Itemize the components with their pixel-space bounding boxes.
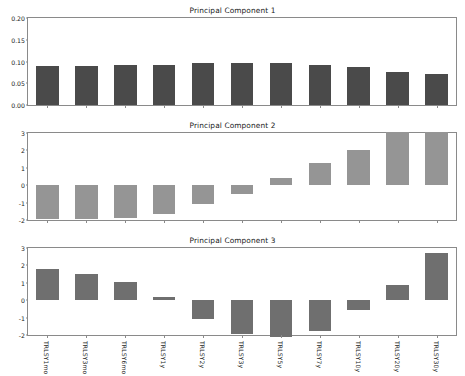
y-axis-tick-mark (26, 202, 29, 203)
y-axis-tick-label: 1 (21, 279, 25, 286)
bar (153, 297, 176, 300)
x-axis-tick-mark (242, 105, 243, 108)
y-axis-tick-label: 2 (21, 262, 25, 269)
y-axis-tick-label: 1 (21, 164, 25, 171)
x-axis-tick-mark (359, 335, 360, 338)
x-axis-tick-mark (281, 220, 282, 223)
x-axis-tick-mark (203, 105, 204, 108)
x-axis-tick-label: TRLSY3mo (82, 341, 89, 374)
y-axis-tick-mark (26, 167, 29, 168)
x-axis-tick-label: TRLSY3y (238, 341, 245, 368)
bar (75, 185, 98, 218)
x-axis-tick-mark (281, 105, 282, 108)
bar (231, 185, 254, 194)
x-axis-tick-mark (398, 220, 399, 223)
bar (309, 65, 332, 105)
y-axis-tick-label: -1 (19, 314, 25, 321)
bar (347, 150, 370, 185)
y-axis-tick-label: 0 (21, 182, 25, 189)
x-axis-tick-mark (398, 105, 399, 108)
x-axis-tick-mark (320, 105, 321, 108)
y-axis-tick-mark (26, 220, 29, 221)
panel-title: Principal Component 3 (0, 236, 465, 245)
x-axis-tick-label: TRLSY2y (199, 341, 206, 368)
panel-title: Principal Component 1 (0, 6, 465, 15)
bar (75, 66, 98, 105)
x-axis-tick-mark (164, 220, 165, 223)
y-axis-tick-label: -1 (19, 199, 25, 206)
y-axis-tick-label: 0.20 (11, 15, 25, 22)
x-axis-tick-mark (203, 335, 204, 338)
bar (231, 300, 254, 334)
y-axis-tick-label: -2 (19, 332, 25, 339)
bar (114, 282, 137, 300)
bar (425, 132, 448, 186)
y-axis-tick-label: -2 (19, 217, 25, 224)
x-axis-tick-label: TRLSY6mo (121, 341, 128, 374)
x-axis-tick-mark (398, 335, 399, 338)
plot-area: 0.000.050.100.150.20 (27, 17, 457, 106)
chart-panel-principal-component-3: Principal Component 3 -2-10123 (0, 236, 465, 340)
y-axis-tick-label: 0.00 (11, 102, 25, 109)
y-axis-tick-mark (26, 83, 29, 84)
x-axis-tick-mark (281, 335, 282, 338)
bar (153, 65, 176, 105)
x-axis-tick-label: TRLSY5y (277, 341, 284, 368)
y-axis-tick-mark (26, 300, 29, 301)
x-axis-tick-label: TRLSY1mo (43, 341, 50, 374)
x-axis-tick-mark (437, 220, 438, 223)
x-axis-tick-mark (47, 335, 48, 338)
y-axis-tick-label: 2 (21, 147, 25, 154)
x-axis-tick-mark (164, 105, 165, 108)
y-axis-tick-mark (26, 18, 29, 19)
x-axis-tick-mark (359, 220, 360, 223)
bar (270, 63, 293, 105)
plot-inner-3: -2-10123 (28, 248, 456, 335)
y-axis-tick-mark (26, 185, 29, 186)
plot-area: -2-10123 (27, 132, 457, 221)
bar (36, 66, 59, 105)
x-axis-tick-mark (242, 220, 243, 223)
x-axis-tick-label: TRLSY10y (355, 341, 362, 372)
y-axis-tick-label: 3 (21, 130, 25, 137)
bar (270, 178, 293, 185)
x-axis-tick-label: TRLSY20y (394, 341, 401, 372)
x-axis-tick-mark (437, 335, 438, 338)
x-axis-tick-mark (47, 220, 48, 223)
bar (309, 163, 332, 186)
panel-title: Principal Component 2 (0, 121, 465, 130)
x-axis-tick-mark (203, 220, 204, 223)
y-axis-tick-label: 0 (21, 297, 25, 304)
y-axis-tick-mark (26, 248, 29, 249)
bar (36, 185, 59, 218)
bar (347, 67, 370, 105)
bar (36, 269, 59, 301)
y-axis-tick-mark (26, 150, 29, 151)
x-axis-tick-mark (125, 335, 126, 338)
x-axis-tick-mark (47, 105, 48, 108)
x-axis-tick-mark (125, 105, 126, 108)
y-axis-tick-label: 0.15 (11, 36, 25, 43)
plot-area: -2-10123 (27, 247, 457, 336)
x-axis-tick-mark (320, 220, 321, 223)
x-axis-tick-mark (437, 105, 438, 108)
x-axis-tick-label: TRLSY1y (160, 341, 167, 368)
chart-panel-principal-component-1: Principal Component 1 0.000.050.100.150.… (0, 6, 465, 110)
x-axis-tick-mark (86, 220, 87, 223)
y-axis-tick-label: 0.10 (11, 58, 25, 65)
y-axis-tick-mark (26, 282, 29, 283)
x-axis-tick-label: TRLSY7y (316, 341, 323, 368)
y-axis-tick-mark (26, 61, 29, 62)
y-axis-tick-label: 3 (21, 245, 25, 252)
x-axis-tick-mark (359, 105, 360, 108)
y-axis-tick-mark (26, 133, 29, 134)
bar (192, 185, 215, 204)
pca-loadings-figure: Principal Component 1 0.000.050.100.150.… (0, 0, 465, 376)
x-axis-tick-mark (86, 105, 87, 108)
y-axis-tick-mark (26, 335, 29, 336)
bar (114, 185, 137, 218)
y-axis-tick-label: 0.05 (11, 80, 25, 87)
y-axis-tick-mark (26, 317, 29, 318)
y-axis-tick-mark (26, 39, 29, 40)
bar (425, 253, 448, 300)
